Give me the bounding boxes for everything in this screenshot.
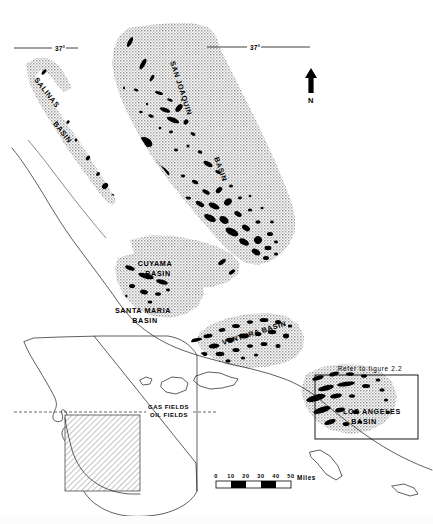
study-area-hatch: [65, 415, 140, 491]
basin-label-santa-maria-line1: SANTA MARIA: [115, 306, 171, 315]
map-figure: 37° 37° N SALINAS BASIN SAN JOAQUIN BASI…: [0, 0, 433, 524]
scale-bar: 0 10 20 30 40 50 Miles: [214, 473, 316, 488]
scale-bar-frame: [216, 481, 291, 488]
legend-gas-fields-label: GAS FIELDS: [148, 404, 189, 410]
graticule-right-label: 37°: [250, 44, 261, 51]
island-santa-cruz: [161, 377, 188, 394]
island-san-miguel: [140, 377, 152, 385]
basin-label-cuyama-line2: BASIN: [145, 269, 170, 278]
basin-label-cuyama-line1: CUYAMA: [138, 259, 172, 268]
north-arrow-icon: [305, 68, 317, 93]
legend-oil-fields-label: OIL FIELDS: [150, 412, 188, 418]
refer-callout-label: Refer to figure 2.2: [338, 365, 402, 373]
island-san-clemente: [392, 484, 418, 496]
valley-edge-line: [28, 140, 106, 238]
scale-bar-segment-1: [231, 481, 246, 488]
basin-label-los-angeles-line1: LOS ANGELES: [343, 407, 401, 416]
figure-bottom-edge: [0, 516, 433, 524]
scale-tick-50: 50: [287, 473, 294, 479]
graticule-left-label: 37°: [55, 45, 66, 52]
scale-tick-20: 20: [242, 473, 249, 479]
island-santa-rosa: [194, 372, 238, 389]
scale-tick-40: 40: [272, 473, 279, 479]
map-canvas: 37° 37° N SALINAS BASIN SAN JOAQUIN BASI…: [0, 0, 433, 524]
scale-bar-segment-2: [261, 481, 276, 488]
basin-area-san-joaquin: [112, 23, 295, 265]
basin-label-los-angeles-line2: BASIN: [351, 417, 376, 426]
north-arrow-label: N: [308, 96, 314, 105]
scale-tick-10: 10: [227, 473, 234, 479]
scale-unit-label: Miles: [297, 474, 316, 481]
basin-label-santa-maria-line2: BASIN: [132, 316, 157, 325]
north-arrow: N: [305, 68, 317, 105]
scale-tick-30: 30: [257, 473, 264, 479]
california-inset-map: [24, 336, 197, 516]
scale-tick-0: 0: [214, 473, 218, 479]
